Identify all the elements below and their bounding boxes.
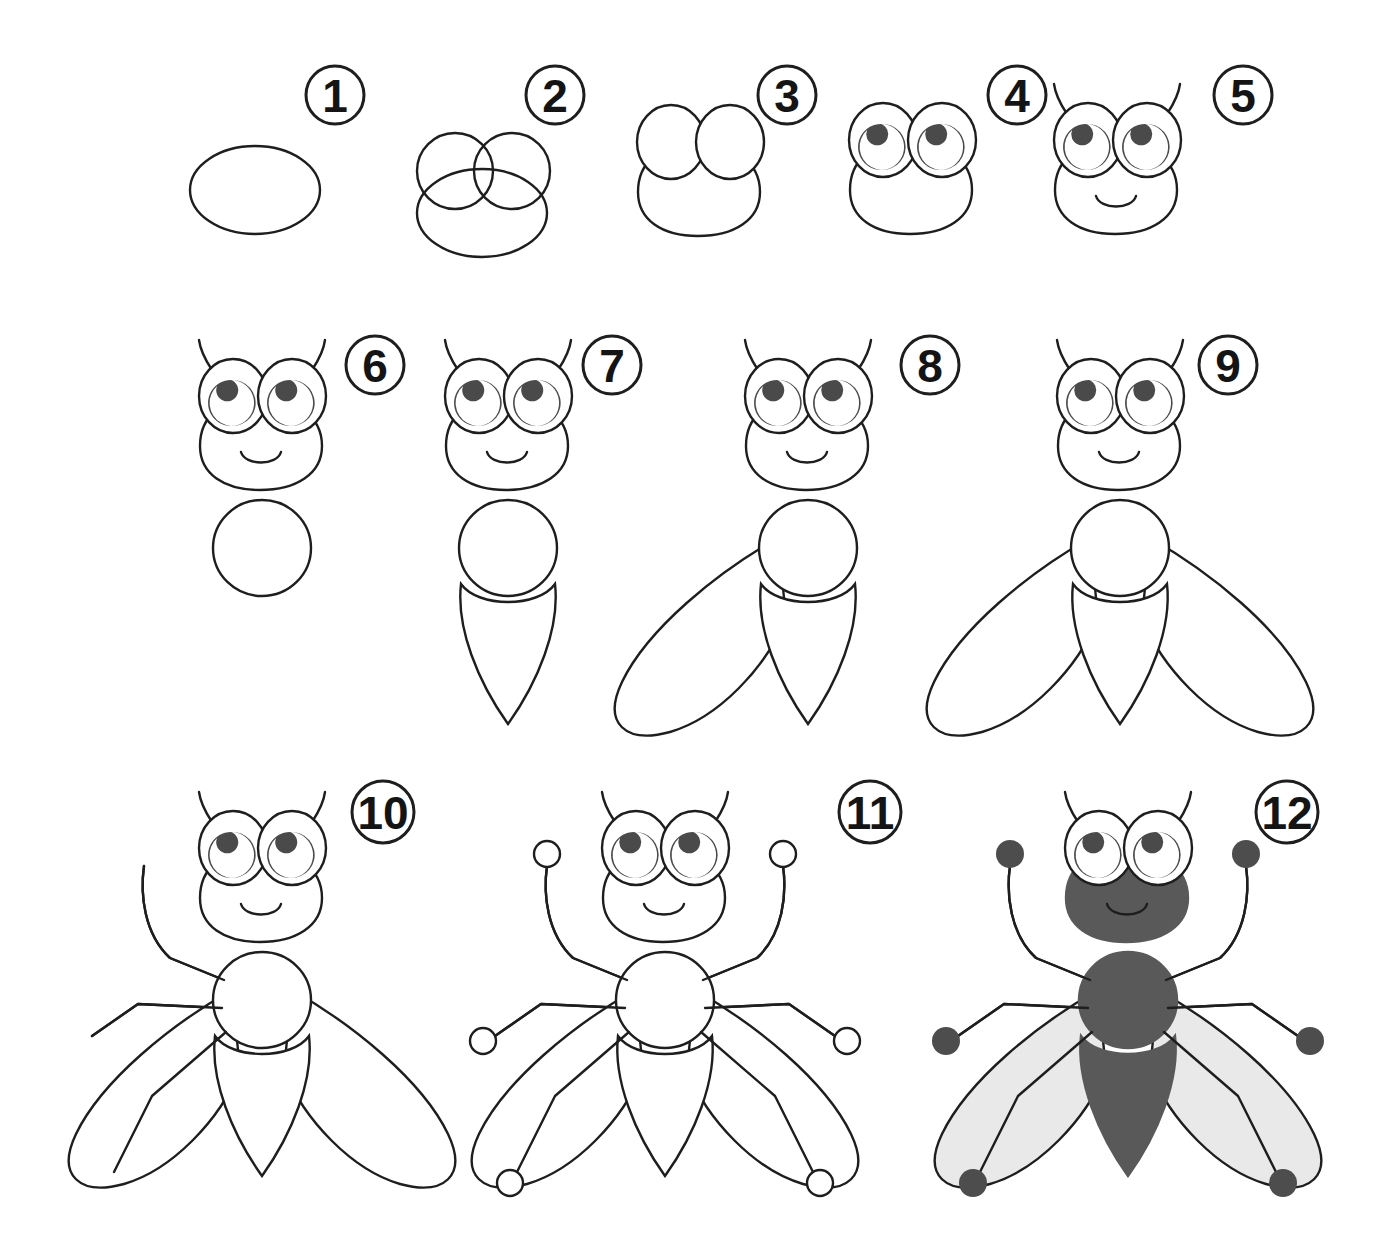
head-outline [745, 359, 872, 490]
step-4-badge: 4 [988, 66, 1046, 124]
step-number-label: 7 [599, 340, 625, 392]
head-outline [199, 811, 326, 942]
head-outline [1054, 103, 1181, 234]
drawing-tutorial-sheet: 1 2 3 4 5 [0, 0, 1388, 1249]
step-8-badge: 8 [901, 336, 959, 394]
step-10-badge: 10 [352, 781, 414, 843]
head-oval [190, 146, 320, 234]
thorax [213, 952, 311, 1048]
step-number-label: 5 [1230, 70, 1256, 122]
thorax-filled [1079, 952, 1177, 1048]
head-outline [199, 359, 326, 490]
step-number-label: 1 [322, 70, 348, 122]
step-6-figure [199, 340, 326, 596]
step-6-badge: 6 [346, 336, 404, 394]
thorax [459, 500, 557, 596]
step-number-label: 6 [362, 340, 388, 392]
step-1-badge: 1 [306, 66, 364, 124]
step-3-figure [637, 105, 764, 236]
step-number-label: 4 [1004, 70, 1030, 122]
step-number-label: 8 [917, 340, 943, 392]
thorax [213, 500, 311, 596]
thorax [759, 500, 857, 596]
step-5-badge: 5 [1214, 66, 1272, 124]
step-3-badge: 3 [758, 66, 816, 124]
step-number-label: 9 [1215, 340, 1241, 392]
step-number-label: 10 [357, 787, 408, 839]
step-9-badge: 9 [1199, 336, 1257, 394]
step-1-figure [190, 146, 320, 234]
step-number-label: 11 [846, 787, 895, 839]
eye-outline-right [696, 105, 764, 179]
step-4-figure [849, 103, 976, 234]
head-outline [849, 103, 976, 234]
thorax [616, 952, 714, 1048]
step-7-badge: 7 [583, 336, 641, 394]
step-12-badge: 12 [1256, 781, 1318, 843]
eye-outline-left [637, 105, 705, 179]
step-11-badge: 11 [839, 781, 901, 843]
step-number-label: 12 [1261, 787, 1312, 839]
head-outline [445, 359, 572, 490]
step-number-label: 3 [774, 70, 800, 122]
thorax [1071, 500, 1169, 596]
step-number-label: 2 [542, 70, 568, 122]
step-2-badge: 2 [526, 66, 584, 124]
head-outline [1057, 359, 1184, 490]
head-outline [602, 811, 729, 942]
